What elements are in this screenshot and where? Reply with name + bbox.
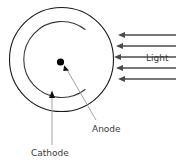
anode-label: Anode	[92, 124, 121, 135]
light-ray-4	[116, 65, 176, 71]
light-ray-5	[118, 76, 176, 82]
light-label: Light	[146, 53, 168, 64]
anode-dot	[57, 58, 64, 65]
cathode-arc	[24, 21, 85, 97]
figure-canvas: Light Anode Cathode	[0, 0, 181, 162]
light-ray-2	[116, 43, 176, 49]
light-ray-1	[118, 32, 176, 38]
cathode-leader-line	[49, 91, 55, 146]
phototube-diagram	[0, 0, 181, 162]
cathode-label: Cathode	[31, 148, 69, 159]
